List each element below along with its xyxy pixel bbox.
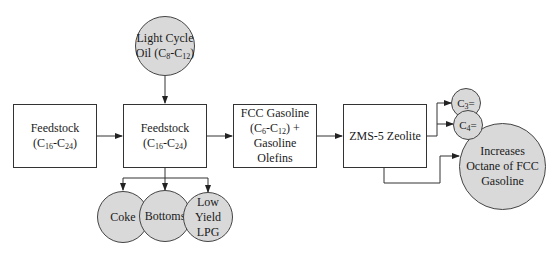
- low-yield-lpg-circle: Low Yield LPG: [183, 192, 233, 242]
- light-cycle-oil-circle: Light Cycle Oil (C8-C12): [135, 16, 195, 76]
- lco-label: Light Cycle: [137, 31, 194, 46]
- fcc-line3: Gasoline: [254, 136, 297, 151]
- fcc-gasoline-box: FCC Gasoline (C6-C12) + Gasoline Olefins: [233, 104, 317, 168]
- zms5-zeolite-box: ZMS-5 Zeolite: [343, 104, 427, 168]
- feedstock-1-label: Feedstock: [31, 121, 80, 136]
- feedstock-2-range: (C16-C24): [143, 136, 187, 151]
- coke-label: Coke: [110, 210, 135, 225]
- c4-olefin-circle: C4=: [453, 110, 483, 140]
- octane-line1: Increases: [480, 144, 525, 159]
- c4-label: C4=: [459, 118, 477, 133]
- zms5-label: ZMS-5 Zeolite: [349, 129, 421, 144]
- fcc-label: FCC Gasoline: [241, 106, 309, 121]
- feedstock-2-label: Feedstock: [141, 121, 190, 136]
- lpg-line1: Low: [197, 195, 219, 210]
- feedstock-1-range: (C16-C24): [33, 136, 77, 151]
- octane-line2: Octane of FCC: [466, 159, 539, 174]
- fcc-range: (C6-C12) +: [250, 121, 300, 136]
- bottoms-label: Bottoms: [145, 209, 186, 224]
- lpg-line3: LPG: [197, 225, 220, 240]
- feedstock-box-1: Feedstock (C16-C24): [13, 104, 97, 168]
- octane-line3: Gasoline: [481, 174, 524, 189]
- feedstock-box-2: Feedstock (C16-C24): [123, 104, 207, 168]
- c3-label: C3=: [457, 96, 475, 111]
- lco-range: Oil (C8-C12): [136, 46, 194, 61]
- lpg-line2: Yield: [195, 210, 221, 225]
- fcc-line4: Olefins: [257, 151, 292, 166]
